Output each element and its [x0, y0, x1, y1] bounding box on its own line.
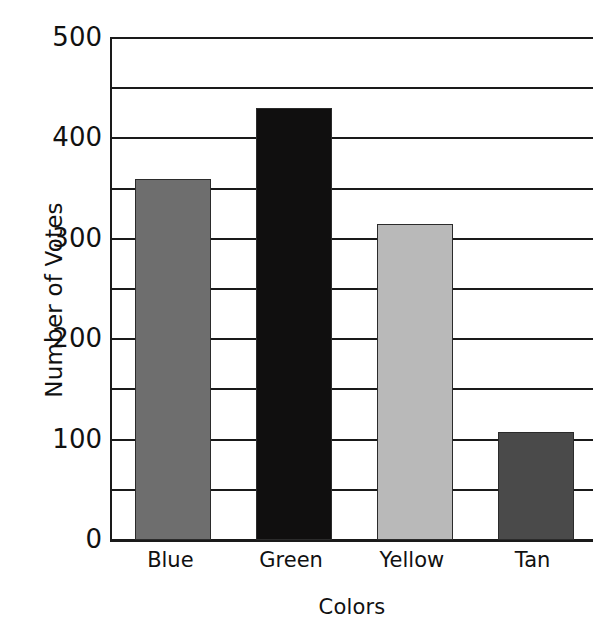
- x-axis-tick-label-tan: Tan: [472, 548, 593, 572]
- y-axis-tick-label: 300: [10, 225, 102, 251]
- y-axis-tick-label: 0: [10, 526, 102, 552]
- bar-chart: Number of Votes 0100200300400500 BlueGre…: [0, 0, 604, 630]
- gridline: [110, 137, 593, 139]
- plot-area: [110, 38, 593, 540]
- x-axis-tick-label-green: Green: [231, 548, 352, 572]
- gridline: [110, 87, 593, 89]
- y-axis-tick-label: 200: [10, 325, 102, 351]
- bar-blue: [135, 179, 211, 540]
- bar-yellow: [377, 224, 453, 540]
- y-axis-title: Number of Votes: [41, 150, 67, 450]
- bar-tan: [498, 432, 574, 540]
- x-axis-title: Colors: [110, 595, 594, 619]
- y-axis-tick-label: 100: [10, 426, 102, 452]
- gridline: [110, 37, 593, 39]
- y-axis-tick-label: 500: [10, 24, 102, 50]
- y-axis-tick-label: 400: [10, 124, 102, 150]
- x-axis-tick-label-blue: Blue: [110, 548, 231, 572]
- x-axis-tick-label-yellow: Yellow: [352, 548, 473, 572]
- bar-green: [256, 108, 332, 540]
